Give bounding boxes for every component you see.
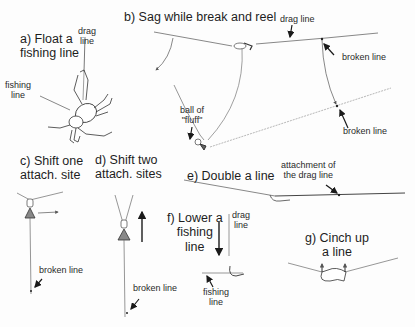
panel-c-title-line1: c) Shift one — [20, 154, 83, 168]
panel-f-title-line2: fishing — [167, 225, 223, 239]
panel-a-drag-line-label: drag line — [78, 26, 96, 47]
spider-icon — [25, 208, 35, 218]
fishing-line-pointer — [40, 96, 70, 110]
panel-c-title-line2: attach. site — [20, 168, 83, 182]
label-line1: attachment of — [281, 160, 336, 170]
panel-a-title-line2: fishing line — [20, 46, 79, 60]
panel-a-title-line1: a) Float a — [20, 32, 79, 46]
panel-d-title: d) Shift two attach. sites — [95, 153, 162, 182]
label-line2: line — [232, 220, 250, 230]
panel-d-broken-line-label: broken line — [133, 283, 177, 293]
shift-arrow — [38, 212, 58, 213]
panel-g-artwork — [288, 258, 398, 281]
panel-c-title: c) Shift one attach. site — [20, 154, 83, 183]
panel-e-attachment-label: attachment of the drag line — [281, 160, 336, 181]
broken-line-arrow — [35, 279, 42, 287]
panel-g-title-line2: a line — [305, 245, 369, 259]
label-line2: the drag line — [281, 170, 336, 180]
label-line1: fishing — [203, 287, 229, 297]
label-line2: line — [5, 90, 31, 100]
label-line2: line — [78, 36, 96, 46]
label-line1: drag — [232, 210, 250, 220]
panel-f-fishing-line-label: fishing line — [203, 287, 229, 308]
panel-b-broken-line-label-lower: broken line — [343, 126, 387, 136]
panel-b-drag-line-label: drag line — [280, 14, 315, 24]
label-line2: line — [203, 297, 229, 307]
panel-f-title: f) Lower a fishing line — [167, 211, 223, 254]
panel-c-artwork — [17, 192, 63, 294]
panel-g-title: g) Cinch up a line — [305, 231, 369, 260]
panel-a-fishing-line-label: fishing line — [5, 80, 31, 101]
panel-g-title-line1: g) Cinch up — [305, 231, 369, 245]
panel-b-fluff-label: ball of "fluff" — [180, 105, 204, 126]
panel-f-title-line3: line — [167, 240, 223, 254]
panel-f-title-line1: f) Lower a — [167, 211, 223, 225]
fluff-arrow — [190, 127, 192, 139]
fishing-line-arrow — [207, 276, 213, 287]
label-line1: fishing — [5, 80, 31, 90]
spider-icon — [48, 70, 112, 143]
broken-line-arrow — [324, 44, 334, 55]
spider-icon — [195, 139, 206, 150]
label-line1: drag — [78, 26, 96, 36]
panel-c-broken-line-label: broken line — [39, 265, 83, 275]
attachment-arrow — [326, 185, 337, 193]
spider-icon — [230, 266, 244, 276]
spider-line-behavior-diagram: a) Float a fishing line drag line fishin… — [0, 0, 415, 327]
spider-icon — [118, 229, 130, 240]
panel-d-title-line1: d) Shift two — [95, 153, 162, 167]
panel-b-broken-line-label-upper: broken line — [342, 52, 386, 62]
panel-e-title: e) Double a line — [187, 169, 275, 183]
spider-icon — [321, 268, 346, 281]
panel-d-title-line2: attach. sites — [95, 167, 162, 181]
panel-d-artwork — [115, 195, 142, 317]
panel-a-title: a) Float a fishing line — [20, 32, 79, 61]
spider-icon — [234, 43, 252, 50]
panel-f-drag-line-label: drag line — [232, 210, 250, 231]
drag-line-arrow — [290, 25, 292, 37]
panel-b-title: b) Sag while break and reel — [124, 10, 276, 24]
label-line1: ball of — [180, 105, 204, 115]
broken-line-arrow — [131, 299, 139, 309]
label-line2: "fluff" — [180, 115, 204, 125]
